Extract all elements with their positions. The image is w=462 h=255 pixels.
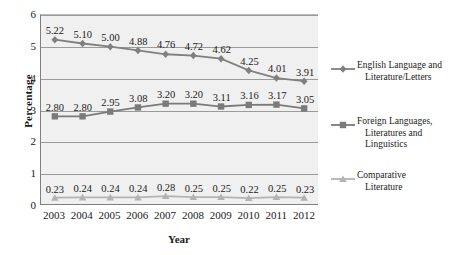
square-legend-icon [330,117,356,129]
square-marker [79,113,85,119]
diamond-legend-icon [330,61,356,73]
x-tick-label: 2012 [284,209,324,221]
y-tick-label: 5 [10,41,36,51]
legend-label-line: Literatures and [357,128,432,140]
square-marker [218,103,224,109]
legend-item-1[interactable]: English Language andLiterature/Letters [330,60,462,83]
series-line [55,196,304,198]
legend-label: Foreign Languages,Literatures andLinguis… [356,116,432,151]
data-label: 3.91 [285,67,325,78]
legend-label: ComparativeLiterature [356,170,406,193]
plot-inner: 5.225.105.004.884.764.724.624.254.013.91… [41,15,318,205]
diamond-marker [273,74,280,82]
legend-label-line: Literature/Letters [357,72,442,84]
diamond-marker [190,52,197,60]
diamond-marker [245,67,252,75]
legend-item-3[interactable]: ComparativeLiterature [330,170,462,193]
plot-area: 5.225.105.004.884.764.724.624.254.013.91… [40,14,318,205]
x-axis-title: Year [40,233,318,245]
legend-label-line: Linguistics [357,139,432,151]
line-chart: Percentage 0123456 5.225.105.004.884.764… [0,0,462,255]
legend-label-line: Comparative [357,170,406,180]
square-marker [273,101,279,107]
diamond-marker [218,55,225,63]
diamond-marker [79,40,86,48]
diamond-marker [135,47,142,55]
y-tick-label: 0 [10,200,36,210]
square-marker [135,104,141,110]
square-marker [107,108,113,114]
data-label: 0.23 [285,184,325,195]
square-marker [301,105,307,111]
legend-item-2[interactable]: Foreign Languages,Literatures andLinguis… [330,116,462,151]
legend-label-line: English Language and [357,60,442,70]
square-marker [52,113,58,119]
y-tick-label: 2 [10,136,36,146]
y-tick-label: 1 [10,168,36,178]
diamond-marker [51,36,58,44]
square-marker [162,100,168,106]
y-axis-tick-labels: 0123456 [8,0,36,255]
triangle-legend-icon [330,171,356,183]
y-tick-label: 3 [10,105,36,115]
y-tick-label: 6 [10,9,36,19]
data-label: 4.62 [202,44,242,55]
diamond-marker [107,43,114,51]
y-tick-label: 4 [10,73,36,83]
square-marker [190,100,196,106]
diamond-marker [340,65,347,73]
diamond-marker [162,50,169,58]
legend-label-line: Foreign Languages, [357,116,432,126]
square-marker [340,122,346,128]
square-marker [246,102,252,108]
diamond-marker [301,77,308,85]
data-label: 3.05 [285,94,325,105]
legend-label-line: Literature [357,182,406,194]
x-axis-tick-labels: 2003200420052006200720082009201020112012 [40,209,318,227]
legend-label: English Language andLiterature/Letters [356,60,442,83]
